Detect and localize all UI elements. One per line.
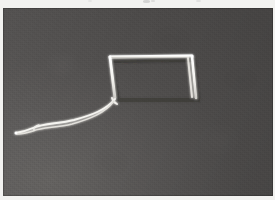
- image-caption: White wire rectangle frame with trailing…: [0, 16, 1, 17]
- scan-artifact-smudge: [88, 0, 92, 2]
- scan-artifact-smudge: [151, 0, 155, 2]
- photo-vignette: [3, 8, 273, 196]
- scan-artifact-smudge: [196, 0, 201, 2]
- page-root: White wire rectangle frame with trailing…: [0, 0, 275, 200]
- scan-artifact-smudge: [143, 0, 150, 3]
- photograph-plate: [3, 8, 273, 196]
